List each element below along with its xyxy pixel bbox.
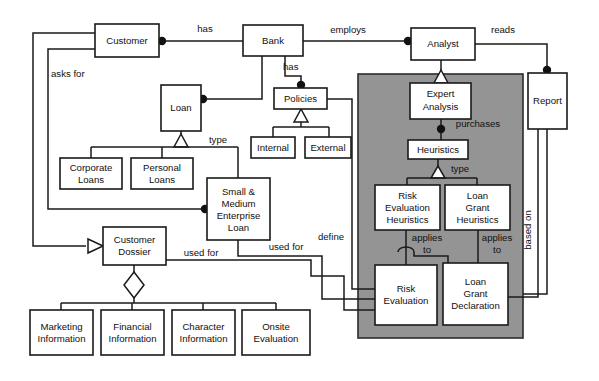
class-label-sme-loan-line4: Loan: [228, 222, 249, 233]
class-box-customer[interactable]: Customer: [95, 24, 159, 57]
class-label-character-information-line2: Information: [180, 333, 228, 344]
edge-label-based-on: based on: [522, 210, 533, 249]
class-label-loan-grant-heuristics-line3: Heuristics: [456, 214, 498, 225]
class-label-loan-grant-heuristics-line1: Loan: [467, 190, 488, 201]
class-label-risk-eval-heuristics-line1: Risk: [398, 190, 417, 201]
class-label-onsite-evaluation-line1: Onsite: [262, 321, 290, 332]
class-box-policies[interactable]: Policies: [274, 88, 327, 109]
uml-class-diagram: Bank --> Analyst --> Report --> Policies…: [0, 0, 599, 381]
class-label-sme-loan-line3: Enterprise: [217, 210, 261, 221]
link-analyst-reads-report: [475, 44, 547, 70]
class-box-expert-analysis[interactable]: Expert Analysis: [410, 83, 471, 119]
class-box-loan-grant-declaration[interactable]: Loan Grant Declaration: [443, 263, 508, 325]
diagram-canvas: Bank --> Analyst --> Report --> Policies…: [0, 0, 599, 381]
class-label-loan-grant-heuristics-line2: Grant: [466, 202, 490, 213]
class-label-marketing-information-line1: Marketing: [40, 321, 82, 332]
class-box-risk-evaluation-heuristics[interactable]: Risk Evaluation Heuristics: [375, 185, 440, 230]
class-label-risk-eval-heuristics-line3: Heuristics: [386, 214, 428, 225]
class-label-personal-loans-line1: Personal: [143, 162, 181, 173]
class-box-internal[interactable]: Internal: [251, 137, 295, 158]
edge-label-applies-to-risk-line2: to: [423, 244, 431, 255]
link-customer-dossier-rail: [33, 33, 95, 246]
class-box-heuristics[interactable]: Heuristics: [408, 140, 468, 159]
edge-label-used-for-sme: used for: [269, 241, 304, 252]
class-label-loan-grant-declaration-line2: Grant: [464, 288, 488, 299]
class-label-character-information-line1: Character: [182, 321, 225, 332]
class-label-expert-analysis-line2: Analysis: [423, 101, 459, 112]
edge-label-applies-to-risk-line1: applies: [412, 232, 443, 243]
class-label-bank: Bank: [262, 35, 284, 46]
class-box-onsite-evaluation[interactable]: Onsite Evaluation: [242, 310, 310, 355]
edge-label-reads: reads: [491, 24, 515, 35]
generalization-triangle-customer-dossier: [88, 239, 103, 253]
link-sme-used-for-risk-evaluation: [238, 240, 375, 299]
class-label-sme-loan-line2: Medium: [221, 198, 255, 209]
class-box-corporate-loans[interactable]: Corporate Loans: [60, 158, 122, 189]
class-label-corporate-loans-line1: Corporate: [70, 162, 113, 173]
edge-label-asks-for: asks for: [51, 68, 85, 79]
class-label-loan-grant-declaration-line1: Loan: [465, 276, 486, 287]
class-box-financial-information[interactable]: Financial Information: [101, 310, 164, 355]
link-bank-loan: [205, 56, 262, 99]
aggregation-diamond-customer-dossier: [124, 272, 144, 298]
class-box-external[interactable]: External: [305, 137, 351, 158]
class-label-internal: Internal: [257, 142, 289, 153]
edge-label-applies-to-grant-line1: applies: [482, 232, 513, 243]
class-box-bank[interactable]: Bank: [243, 25, 303, 56]
class-box-personal-loans[interactable]: Personal Loans: [131, 158, 193, 189]
class-label-risk-evaluation-line2: Evaluation: [384, 295, 429, 306]
class-label-risk-eval-heuristics-line2: Evaluation: [385, 202, 430, 213]
class-box-loan-grant-heuristics[interactable]: Loan Grant Heuristics: [445, 185, 510, 230]
edge-label-has-bank-policies: has: [283, 61, 299, 72]
class-label-external: External: [310, 142, 345, 153]
edge-label-type-loan: type: [209, 134, 227, 145]
class-box-customer-dossier[interactable]: Customer Dossier: [103, 227, 166, 265]
edge-label-applies-to-grant-line2: to: [493, 244, 501, 255]
class-label-customer-dossier-line1: Customer: [114, 234, 156, 245]
class-label-financial-information-line2: Information: [109, 333, 157, 344]
generalization-triangle-policies: [294, 109, 308, 122]
class-box-analyst[interactable]: Analyst: [411, 28, 475, 60]
class-label-loan: Loan: [170, 102, 191, 113]
class-label-corporate-loans-line2: Loans: [78, 174, 104, 185]
edge-label-used-for-dossier: used for: [184, 247, 219, 258]
class-label-sme-loan-line1: Small &: [222, 186, 256, 197]
class-box-risk-evaluation[interactable]: Risk Evaluation: [375, 265, 437, 325]
class-label-onsite-evaluation-line2: Evaluation: [254, 333, 299, 344]
edge-label-has-customer-bank: has: [197, 23, 213, 34]
class-label-customer-dossier-line2: Dossier: [118, 246, 151, 257]
class-box-loan[interactable]: Loan: [161, 85, 201, 131]
class-label-personal-loans-line2: Loans: [149, 174, 175, 185]
class-label-heuristics: Heuristics: [417, 144, 459, 155]
class-label-report: Report: [533, 95, 562, 106]
class-label-policies: Policies: [284, 93, 317, 104]
class-box-sme-loan[interactable]: Small & Medium Enterprise Loan: [207, 178, 270, 240]
edge-label-define: define: [318, 231, 344, 242]
edge-label-purchases: purchases: [456, 118, 500, 129]
class-label-expert-analysis-line1: Expert: [427, 88, 455, 99]
class-box-marketing-information[interactable]: Marketing Information: [30, 310, 93, 355]
aggregation-dot-expert-analysis-heuristics: [437, 125, 445, 133]
class-box-character-information[interactable]: Character Information: [172, 310, 235, 355]
class-label-financial-information-line1: Financial: [113, 321, 151, 332]
class-label-customer: Customer: [106, 35, 148, 46]
class-label-analyst: Analyst: [427, 38, 459, 49]
class-label-risk-evaluation-line1: Risk: [397, 283, 416, 294]
class-box-report[interactable]: Report: [528, 73, 567, 129]
edge-label-type-heuristics: type: [451, 163, 469, 174]
class-label-loan-grant-declaration-line3: Declaration: [451, 300, 500, 311]
edge-label-employs: employs: [330, 24, 366, 35]
generalization-triangle-loan: [174, 134, 188, 147]
class-label-marketing-information-line2: Information: [38, 333, 86, 344]
